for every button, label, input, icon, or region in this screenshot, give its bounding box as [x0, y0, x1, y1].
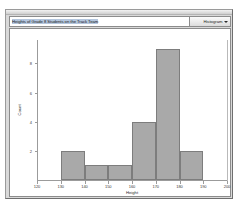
x-axis-tick-label: 140 — [81, 184, 88, 189]
plot-right-frame — [227, 40, 228, 181]
chart-toolbar: Heights of Grade 8 Students on the Track… — [9, 16, 231, 27]
window-titlebar[interactable] — [6, 10, 232, 15]
x-axis-tick-label: 190 — [200, 184, 207, 189]
x-axis-tick-label: 120 — [34, 184, 41, 189]
histogram-bar[interactable] — [108, 165, 132, 180]
y-axis-tick-label: 2 — [30, 148, 32, 153]
histogram-bar[interactable] — [85, 165, 109, 180]
title-field-filler[interactable] — [105, 16, 189, 27]
histogram-bar[interactable] — [132, 122, 156, 180]
x-axis-tick-label: 160 — [129, 184, 136, 189]
x-axis-tick-label: 170 — [152, 184, 159, 189]
chart-type-label: Histogram — [203, 19, 222, 24]
app-root: Heights of Grade 8 Students on the Track… — [0, 0, 238, 207]
x-axis-title: Height — [126, 190, 138, 195]
x-axis-tick-label: 200 — [224, 184, 231, 189]
histogram-bar[interactable] — [61, 151, 85, 180]
histogram-bar[interactable] — [156, 49, 180, 180]
y-axis-tick — [35, 151, 38, 152]
histogram-bar[interactable] — [180, 151, 204, 180]
chart-type-dropdown[interactable]: Histogram — [189, 16, 231, 27]
y-axis-tick — [35, 93, 38, 94]
chart-title-text: Heights of Grade 8 Students on the Track… — [12, 19, 98, 24]
chart-window: Heights of Grade 8 Students on the Track… — [5, 9, 233, 199]
x-axis-tick-label: 180 — [176, 184, 183, 189]
y-axis-tick — [35, 122, 38, 123]
plot-area: Height Count 120130140150160170180190200… — [10, 29, 230, 196]
x-axis-tick-label: 150 — [105, 184, 112, 189]
y-axis-line — [37, 40, 38, 181]
plot-panel: Height Count 120130140150160170180190200… — [9, 28, 231, 197]
y-axis-tick — [35, 63, 38, 64]
y-axis-tick-label: 4 — [30, 119, 32, 124]
y-axis-tick-label: 8 — [30, 61, 32, 66]
chart-title-input[interactable]: Heights of Grade 8 Students on the Track… — [9, 16, 105, 27]
chevron-down-icon — [224, 21, 228, 23]
y-axis-title: Count — [17, 104, 22, 115]
y-axis-tick-label: 6 — [30, 90, 32, 95]
x-axis-tick-label: 130 — [57, 184, 64, 189]
